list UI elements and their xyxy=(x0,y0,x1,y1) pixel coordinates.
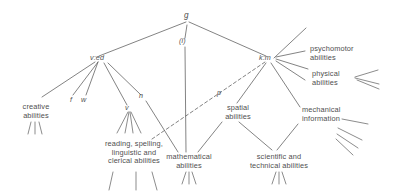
factor-label-verbal-educational: v:ed xyxy=(90,54,104,62)
group-label-psychomotor-abilities: psychomotor abilities xyxy=(310,45,380,62)
group-label-scientific-technical-abilities: scientific and technical abilities xyxy=(240,153,318,170)
twig-reading-c xyxy=(152,172,157,190)
edge-ved-to-verbal xyxy=(104,63,127,105)
edge-km-to-spatial xyxy=(237,63,266,103)
edge-verbal-to-reading-b xyxy=(125,112,129,133)
group-label-physical-abilities: physical abilities xyxy=(312,70,370,87)
twig-mathematical-c xyxy=(192,172,196,184)
factor-label-number: n xyxy=(139,92,143,100)
factor-label-spatial-mechanical: k:m xyxy=(259,54,271,62)
edge-km-to-psychomotor xyxy=(274,28,306,58)
twig-mathematical-a xyxy=(182,172,186,184)
factor-label-fluency: f xyxy=(70,96,72,104)
twig-scientific-a xyxy=(272,172,276,184)
edge-perceptual-dashed xyxy=(152,62,265,139)
ability-hierarchy-diagram: g (i) v:ed k:m f w v n p creative abilit… xyxy=(0,0,397,192)
factor-label-general-sub: (i) xyxy=(179,37,186,45)
edge-spatial-to-scientific xyxy=(239,122,272,150)
group-label-mathematical-abilities: mathematical abilities xyxy=(155,153,223,170)
factor-label-perceptual: p xyxy=(217,89,221,97)
edge-verbal-to-reading-a xyxy=(117,112,128,133)
edge-km-to-mechanical xyxy=(271,63,300,107)
group-label-spatial-abilities: spatial abilities xyxy=(209,104,267,121)
edge-mechanical-to-scientific xyxy=(277,124,298,150)
twig-mechanical-d xyxy=(336,139,353,155)
twig-mechanical-b xyxy=(338,128,362,140)
twig-creative-c xyxy=(39,122,42,134)
edge-gi-to-mathematical xyxy=(185,47,186,152)
twig-creative-a xyxy=(28,122,31,134)
factor-label-verbal: v xyxy=(125,104,129,112)
edge-g-to-ved xyxy=(99,22,186,56)
twig-scientific-c xyxy=(282,172,286,184)
edge-spatial-to-mathematical xyxy=(198,122,222,152)
factor-label-general: g xyxy=(184,12,189,20)
twig-reading-a xyxy=(109,172,113,190)
factor-label-word-fluency: w xyxy=(81,96,86,104)
group-label-mechanical-information: mechanical information xyxy=(302,106,372,123)
edge-ved-to-fluency xyxy=(73,62,98,95)
edge-g-to-km xyxy=(189,22,266,56)
group-label-creative-abilities: creative abilities xyxy=(8,103,64,120)
